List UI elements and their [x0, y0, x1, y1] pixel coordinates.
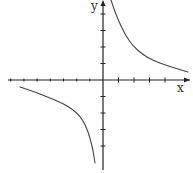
axes: [8, 0, 190, 170]
y-axis-arrow-icon: [101, 0, 106, 6]
branch-quadrant-III: [20, 87, 95, 163]
curves: [20, 0, 188, 163]
y-axis-label: y: [91, 0, 98, 12]
branch-quadrant-I: [111, 0, 188, 72]
plot-area: [0, 0, 193, 173]
x-axis-label: x: [177, 82, 184, 94]
hyperbola-chart: y x: [0, 0, 193, 173]
x-axis-arrow-icon: [184, 78, 190, 83]
